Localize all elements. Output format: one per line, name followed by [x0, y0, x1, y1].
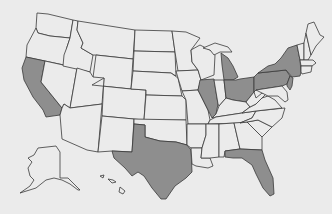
state-north-dakota [134, 30, 175, 52]
state-new-mexico [98, 116, 134, 152]
us-states-map [0, 0, 332, 214]
state-massachusetts [300, 60, 316, 66]
state-kansas [144, 95, 186, 120]
